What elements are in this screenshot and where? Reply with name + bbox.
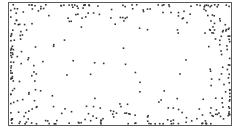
- scatter-dots: [0, 0, 240, 137]
